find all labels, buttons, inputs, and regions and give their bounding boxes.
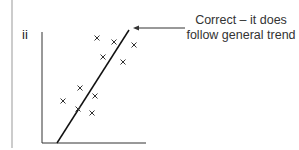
cross-marker-icon: [132, 43, 137, 48]
cross-marker-icon: [95, 36, 100, 41]
cross-marker-icon: [121, 60, 126, 65]
cross-marker-icon: [90, 111, 95, 116]
cross-marker-icon: [101, 55, 106, 60]
arrow-head-icon: [133, 26, 139, 31]
cross-marker-icon: [78, 86, 83, 91]
cross-marker-icon: [93, 94, 98, 99]
cross-marker-icon: [112, 40, 117, 45]
scatter-plot: [0, 0, 299, 150]
data-points: [61, 36, 137, 116]
cross-marker-icon: [61, 99, 66, 104]
best-fit-line: [57, 30, 129, 143]
